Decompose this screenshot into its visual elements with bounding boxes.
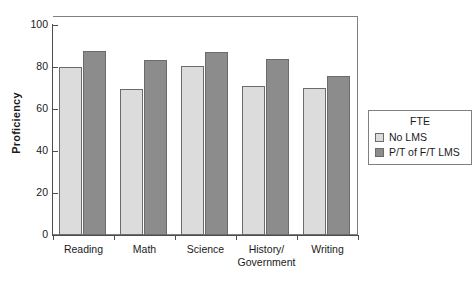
legend-swatch-icon-light: [375, 133, 384, 142]
bar: [242, 86, 265, 235]
legend-title: FTE: [375, 115, 465, 127]
bar: [144, 60, 167, 235]
y-tick-label-100: 100: [18, 18, 48, 30]
y-tick-label-80: 80: [18, 60, 48, 72]
x-tick: [236, 235, 237, 240]
bar: [205, 52, 228, 235]
x-tick: [297, 235, 298, 240]
x-tick: [175, 235, 176, 240]
y-tick-label-20: 20: [18, 186, 48, 198]
bar: [83, 51, 106, 235]
legend: FTE No LMS P/T of F/T LMS: [368, 110, 472, 165]
legend-swatch-icon-dark: [375, 148, 384, 157]
legend-entry-pt-ft-lms: P/T of F/T LMS: [375, 146, 465, 158]
x-tick: [114, 235, 115, 240]
x-axis-line: [53, 235, 359, 236]
y-axis-title: Proficiency: [6, 0, 26, 245]
bar: [120, 89, 143, 235]
bar: [303, 88, 326, 235]
y-tick-label-40: 40: [18, 144, 48, 156]
x-tick: [358, 235, 359, 240]
bar: [266, 59, 289, 235]
x-tick: [53, 235, 54, 240]
plot-area: [53, 16, 358, 235]
bar: [327, 76, 350, 235]
legend-label-pt-ft-lms: P/T of F/T LMS: [389, 146, 460, 158]
x-axis-label: Writing: [289, 243, 366, 256]
bar-chart: Proficiency 020406080100 ReadingMathScie…: [0, 0, 475, 285]
bar: [59, 67, 82, 235]
legend-label-no-lms: No LMS: [389, 131, 427, 143]
legend-entry-no-lms: No LMS: [375, 131, 465, 143]
bar: [181, 66, 204, 235]
y-tick-label-60: 60: [18, 102, 48, 114]
y-tick-label-0: 0: [18, 228, 48, 240]
